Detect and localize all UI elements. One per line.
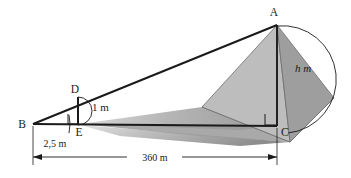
point-label-A: A [270,6,279,18]
dimension-arrow-left [33,154,42,160]
geometry-figure: A B C D E h m 1 m 2,5 m 360 m [0,0,351,178]
pyramid-diagram-canvas: A B C D E h m 1 m 2,5 m 360 m [0,0,351,178]
point-label-B: B [18,118,26,130]
point-label-E: E [75,126,82,138]
stick-height-label-1m: 1 m [92,101,109,113]
point-label-D: D [71,83,79,95]
dimension-arrow-right [268,154,277,160]
stick-distance-label-2-5m: 2,5 m [44,138,67,149]
base-distance-label-360m: 360 m [142,152,168,163]
height-label-h-m: h m [295,62,311,74]
point-label-C: C [281,126,289,138]
